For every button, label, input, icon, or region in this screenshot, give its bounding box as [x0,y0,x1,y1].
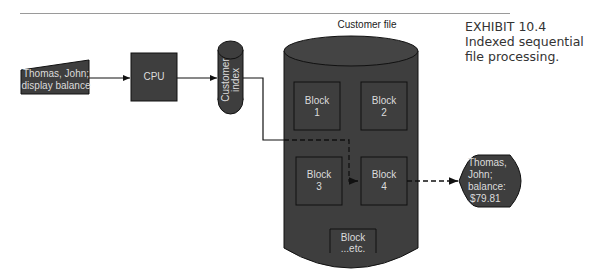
svg-text:balance:: balance: [468,181,506,192]
svg-text:Block: Block [372,169,397,180]
svg-text:2: 2 [381,107,387,118]
cpu-label: CPU [143,71,164,82]
customer-index-cylinder: Customer index [218,41,243,114]
cpu-box: CPU [131,53,177,101]
block-4: Block 4 [361,157,407,205]
svg-text:Block: Block [307,169,332,180]
svg-text:1: 1 [314,107,320,118]
index-pointer-line [243,78,284,140]
svg-text:Thomas,: Thomas, [468,157,507,168]
input-line1: Thomas, John; [23,68,89,79]
svg-text:Block: Block [372,95,397,106]
block-3: Block 3 [296,157,342,205]
input-terminal: Thomas, John; display balance [21,60,91,94]
block-1: Block 1 [294,82,340,130]
svg-text:Block: Block [341,232,366,243]
block-2: Block 2 [361,82,407,130]
svg-text:4: 4 [381,181,387,192]
svg-text:Block: Block [305,95,330,106]
output-display: Thomas, John; balance: $79.81 [459,155,521,207]
svg-text:3: 3 [316,181,322,192]
svg-text:John;: John; [468,169,492,180]
flow-diagram: Thomas, John; display balance CPU Custom… [0,0,598,275]
svg-text:$79.81: $79.81 [470,193,501,204]
input-line2: display balance [22,80,91,91]
svg-text:...etc.: ...etc. [341,243,365,254]
index-line2: index [230,68,241,92]
block-etc: Block ...etc. [330,229,376,254]
